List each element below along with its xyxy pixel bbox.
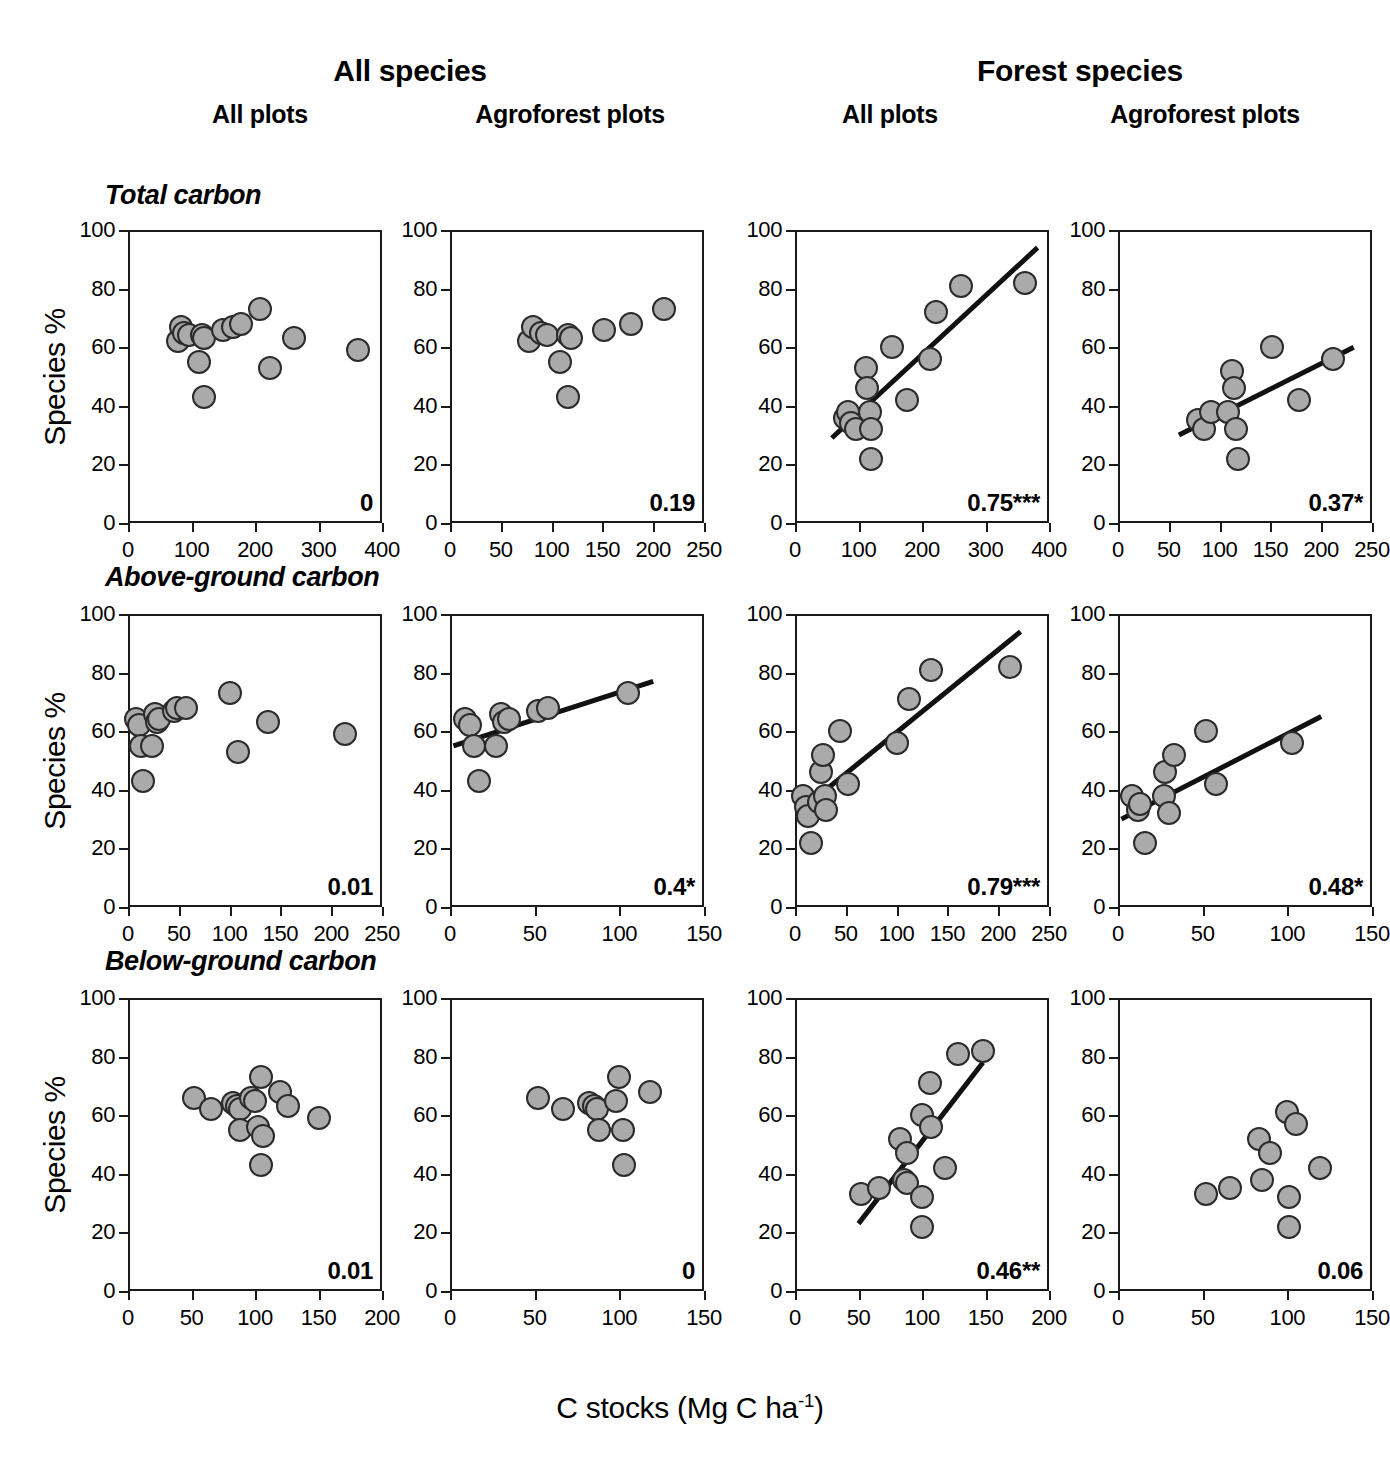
x-tick (1287, 907, 1289, 916)
y-tick-label: 100 (1069, 985, 1105, 1011)
data-point (1277, 1185, 1301, 1209)
data-point (607, 1065, 631, 1089)
x-tick-label: 200 (635, 537, 671, 563)
y-tick (441, 614, 450, 616)
scatter-panel-p8: 0204060801000501001500.48* (1118, 614, 1372, 907)
y-tick-label: 60 (1081, 718, 1105, 744)
y-tick-label: 80 (758, 1044, 782, 1070)
x-tick-label: 250 (1354, 537, 1390, 563)
x-tick (1372, 523, 1374, 532)
data-point (897, 687, 921, 711)
y-tick (1109, 406, 1118, 408)
x-tick (179, 907, 181, 916)
x-tick-label: 0 (1112, 921, 1124, 947)
y-tick (441, 1232, 450, 1234)
y-tick (1109, 614, 1118, 616)
x-tick-label: 200 (364, 1305, 400, 1331)
y-tick (441, 1291, 450, 1293)
y-tick-label: 60 (413, 718, 437, 744)
x-tick-label: 150 (1354, 1305, 1390, 1331)
y-tick (786, 1057, 795, 1059)
data-point (1224, 417, 1248, 441)
x-tick (795, 523, 797, 532)
y-tick (441, 406, 450, 408)
x-tick (602, 523, 604, 532)
column-header-2: Agroforest plots (420, 100, 720, 129)
y-tick (786, 406, 795, 408)
y-tick-label: 100 (401, 985, 437, 1011)
y-tick (1109, 998, 1118, 1000)
y-tick (786, 907, 795, 909)
y-tick (1109, 347, 1118, 349)
y-tick-label: 80 (91, 660, 115, 686)
y-tick-label: 0 (770, 894, 782, 920)
x-tick (128, 907, 130, 916)
y-tick-label: 100 (79, 217, 115, 243)
x-tick-label: 50 (167, 921, 191, 947)
x-tick-label: 50 (1191, 1305, 1215, 1331)
y-tick (119, 998, 128, 1000)
x-tick-label: 200 (1031, 1305, 1067, 1331)
data-point (536, 696, 560, 720)
x-tick-label: 0 (789, 921, 801, 947)
y-tick-label: 0 (425, 1278, 437, 1304)
x-tick (1049, 907, 1051, 916)
y-tick (441, 998, 450, 1000)
data-point (258, 356, 282, 380)
y-tick-label: 100 (79, 985, 115, 1011)
y-tick (119, 1174, 128, 1176)
r-squared-annotation: 0.46** (976, 1257, 1040, 1285)
data-point (307, 1106, 331, 1130)
r-squared-annotation: 0.19 (649, 489, 695, 517)
x-tick (1220, 523, 1222, 532)
y-tick-label: 80 (758, 276, 782, 302)
x-tick (382, 907, 384, 916)
column-header-3: All plots (760, 100, 1020, 129)
y-tick (119, 1232, 128, 1234)
data-point (919, 1115, 943, 1139)
data-point (1194, 719, 1218, 743)
y-tick (119, 347, 128, 349)
data-point (187, 350, 211, 374)
x-tick (1049, 523, 1051, 532)
x-tick-label: 150 (1354, 921, 1390, 947)
group-header-all-species: All species (230, 54, 590, 88)
y-tick-label: 60 (758, 334, 782, 360)
y-tick-label: 20 (758, 1219, 782, 1245)
data-point (1258, 1141, 1282, 1165)
x-tick-label: 250 (364, 921, 400, 947)
data-point (1308, 1156, 1332, 1180)
scatter-panel-p4: 0204060801000501001502002500.37* (1118, 230, 1372, 523)
y-tick (786, 1232, 795, 1234)
x-tick-label: 100 (602, 921, 638, 947)
y-tick (119, 230, 128, 232)
y-tick-label: 0 (425, 894, 437, 920)
x-tick-label: 150 (686, 1305, 722, 1331)
x-tick (382, 523, 384, 532)
y-tick (441, 347, 450, 349)
y-tick-label: 40 (758, 1161, 782, 1187)
scatter-panel-p2: 0204060801000501001502002500.19 (450, 230, 704, 523)
y-tick (119, 731, 128, 733)
y-tick-label: 100 (401, 217, 437, 243)
x-tick-label: 150 (686, 921, 722, 947)
y-tick-label: 40 (1081, 1161, 1105, 1187)
x-tick (319, 523, 321, 532)
y-tick (1109, 731, 1118, 733)
y-tick (441, 790, 450, 792)
x-tick (1049, 1291, 1051, 1300)
r-squared-annotation: 0.48* (1308, 873, 1363, 901)
data-point (551, 1097, 575, 1121)
y-tick-label: 40 (1081, 393, 1105, 419)
y-tick-label: 100 (1069, 601, 1105, 627)
row-header-above-ground-carbon: Above-ground carbon (105, 562, 379, 593)
data-point (880, 335, 904, 359)
data-point-layer (1118, 230, 1372, 523)
data-point (910, 1215, 934, 1239)
y-tick (786, 848, 795, 850)
y-tick-label: 20 (758, 835, 782, 861)
x-tick-label: 250 (686, 537, 722, 563)
x-tick-label: 200 (1303, 537, 1339, 563)
x-tick (192, 1291, 194, 1300)
x-tick (859, 523, 861, 532)
